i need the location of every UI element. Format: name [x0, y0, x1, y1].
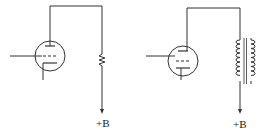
schematic-diagram: +B +B — [0, 0, 263, 135]
circuit-resistor-load: +B — [10, 6, 110, 129]
plate-wire — [187, 8, 240, 51]
supply-label: +B — [233, 118, 247, 130]
arrow-down-icon — [100, 109, 104, 114]
circuit-inductor-load: +B — [146, 8, 255, 130]
arrow-down-icon — [238, 109, 242, 114]
supply-label: +B — [96, 117, 110, 129]
resistor-icon — [99, 54, 105, 66]
inductor-icon — [236, 38, 255, 84]
triode-tube-icon — [168, 46, 198, 76]
plate-wire — [50, 6, 102, 54]
